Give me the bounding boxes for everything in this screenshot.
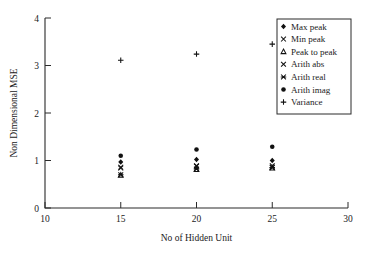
legend-item-label: Variance [291,97,322,107]
legend-item-label: Arith imag [291,85,331,95]
legend-item-label: Min peak [291,34,326,44]
scatter-plot-figure: 4 3 2 1 0 10 15 20 25 30 No of Hidden Un… [0,0,376,260]
legend-item-label: Arith real [291,72,326,82]
y-tick-label-3: 3 [34,61,39,71]
y-tick-label-0: 0 [34,204,39,214]
y-tick-label-4: 4 [34,14,39,24]
y-axis-title: Non Dimensional MSE [9,68,19,157]
legend-item-label: Max peak [291,22,327,32]
y-tick-label-1: 1 [34,156,39,166]
x-tick-label-10: 10 [40,214,50,224]
legend-item-label: Peak to peak [291,47,337,57]
x-tick-label-20: 20 [192,214,202,224]
data-point [118,153,123,158]
plot-svg: 4 3 2 1 0 10 15 20 25 30 No of Hidden Un… [0,0,376,260]
legend: Max peakMin peakPeak to peakArith absAri… [277,19,351,114]
x-tick-label-15: 15 [116,214,126,224]
data-point [194,147,199,152]
x-tick-label-25: 25 [268,214,278,224]
y-tick-label-2: 2 [34,109,39,119]
data-point [270,144,275,149]
x-axis-title: No of Hidden Unit [161,233,233,243]
legend-marker-icon [281,87,286,92]
x-tick-label-30: 30 [343,214,353,224]
legend-item-label: Arith abs [291,59,325,69]
